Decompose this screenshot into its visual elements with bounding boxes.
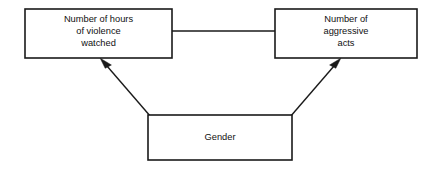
node-hours-of-violence: Number of hours of violence watched — [25, 9, 172, 58]
node-gender: Gender — [148, 115, 292, 160]
arrow-gender-to-acts — [290, 58, 341, 117]
arrowhead-up-left-icon — [100, 58, 111, 68]
hours-of-violence-label-line-2: of violence — [76, 26, 120, 36]
aggressive-acts-label-line-3: acts — [337, 38, 354, 48]
aggressive-acts-label-line-2: aggressive — [324, 26, 369, 36]
hours-of-violence-label-line-3: watched — [80, 38, 116, 48]
gender-label: Gender — [204, 132, 235, 142]
arrow-gender-to-hours — [100, 58, 151, 117]
diagram-canvas: Number of hours of violence watched Numb… — [0, 0, 437, 170]
aggressive-acts-label-line-1: Number of — [324, 14, 368, 24]
hours-of-violence-label-line-1: Number of hours — [64, 14, 134, 24]
path-diagram: Number of hours of violence watched Numb… — [0, 0, 437, 170]
node-aggressive-acts: Number of aggressive acts — [275, 9, 417, 58]
arrowhead-up-right-icon — [330, 58, 341, 68]
